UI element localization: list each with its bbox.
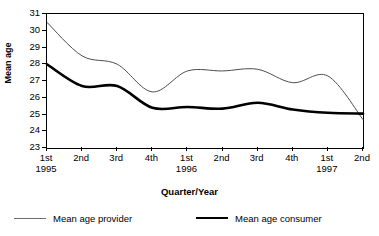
x-axis-tick-labels: 1st19952nd3rd4th1st19962nd3rd4th1st19972…: [0, 152, 379, 182]
x-tick-year: 1996: [158, 163, 214, 174]
x-axis-tick-mark: [222, 147, 223, 151]
y-axis-tick-labels: 313029282726252423: [8, 0, 40, 236]
legend-label-consumer: Mean age consumer: [235, 213, 322, 224]
legend-entry-provider: Mean age provider: [14, 210, 132, 226]
y-axis-tick-label: 31: [12, 8, 40, 17]
x-tick-quarter: 2nd: [334, 152, 379, 163]
legend-entry-consumer: Mean age consumer: [196, 210, 322, 226]
x-axis-tick-mark: [116, 147, 117, 151]
x-axis-tick-mark: [292, 147, 293, 151]
plot-lines: [47, 14, 363, 148]
x-axis-tick-label: 2nd: [334, 152, 379, 163]
x-axis-tick-mark: [327, 147, 328, 151]
x-axis-tick-mark: [257, 147, 258, 151]
y-axis-tick-mark: [42, 97, 46, 98]
series-line-consumer: [47, 64, 363, 113]
x-tick-year: 1995: [18, 163, 74, 174]
y-axis-tick-label: 26: [12, 92, 40, 101]
y-axis-tick-label: 25: [12, 109, 40, 118]
y-axis-tick-mark: [42, 13, 46, 14]
x-axis-tick-mark: [46, 147, 47, 151]
x-axis-tick-mark: [362, 147, 363, 151]
y-axis-tick-label: 27: [12, 75, 40, 84]
legend-line-consumer-icon: [196, 217, 228, 220]
y-axis-tick-mark: [42, 114, 46, 115]
x-axis-tick-mark: [151, 147, 152, 151]
x-tick-year: 1997: [299, 163, 355, 174]
x-axis-tick-mark: [186, 147, 187, 151]
x-axis-tick-mark: [81, 147, 82, 151]
legend-line-provider-icon: [14, 218, 46, 219]
y-axis-tick-label: 23: [12, 142, 40, 151]
y-axis-tick-label: 24: [12, 125, 40, 134]
y-axis-tick-mark: [42, 30, 46, 31]
chart-legend: Mean age provider Mean age consumer: [0, 210, 379, 230]
y-axis-tick-mark: [42, 47, 46, 48]
y-axis-tick-mark: [42, 130, 46, 131]
series-line-provider: [47, 22, 363, 119]
mean-age-line-chart: Mean age 313029282726252423 1st19952nd3r…: [0, 0, 379, 236]
plot-area: [46, 13, 364, 149]
x-axis-title: Quarter/Year: [0, 186, 379, 197]
y-axis-tick-mark: [42, 80, 46, 81]
y-axis-tick-mark: [42, 63, 46, 64]
y-axis-tick-label: 30: [12, 25, 40, 34]
y-axis-tick-label: 29: [12, 42, 40, 51]
y-axis-tick-label: 28: [12, 58, 40, 67]
legend-label-provider: Mean age provider: [53, 213, 132, 224]
